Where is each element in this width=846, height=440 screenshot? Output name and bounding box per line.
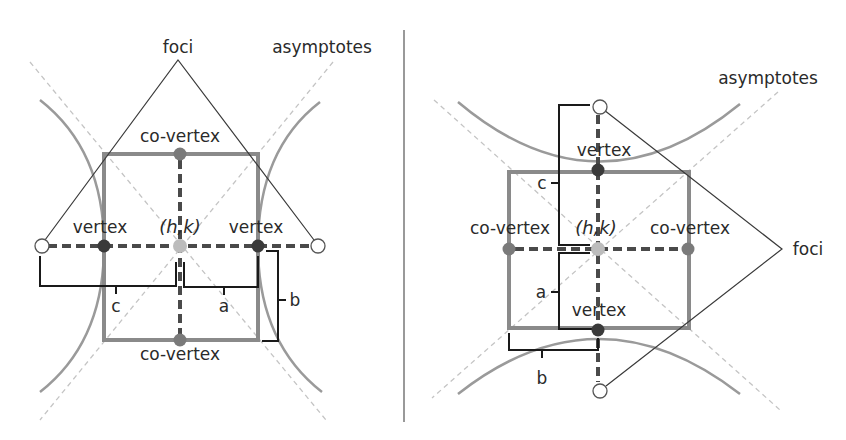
covertex-left-label: co-vertex	[470, 218, 550, 238]
center-point	[591, 242, 605, 256]
covertex-point-top	[174, 148, 187, 161]
left-panel: foci asymptotes co-vertex vertex (h,k) v…	[30, 37, 372, 420]
asymptote-line	[432, 92, 778, 398]
asymptotes-label: asymptotes	[718, 68, 818, 88]
c-label: c	[111, 296, 120, 316]
asymptote-line	[40, 62, 333, 420]
covertex-right-label: co-vertex	[650, 218, 730, 238]
b-bracket	[509, 333, 598, 350]
a-label: a	[536, 282, 546, 302]
c-bracket	[40, 256, 176, 286]
a-bracket	[184, 256, 258, 287]
focus-point-top	[593, 100, 607, 114]
vertex-point-left	[98, 240, 111, 253]
focus-point-right	[311, 239, 325, 253]
covertex-point-right	[682, 243, 695, 256]
b-label: b	[290, 290, 301, 310]
vertex-left-label: vertex	[73, 217, 127, 237]
vertex-point-right	[252, 240, 265, 253]
covertex-bottom-label: co-vertex	[140, 344, 220, 364]
covertex-top-label: co-vertex	[140, 126, 220, 146]
hyperbola-diagram: foci asymptotes co-vertex vertex (h,k) v…	[0, 0, 846, 440]
vertex-point-bottom	[592, 324, 605, 337]
asymptotes-label: asymptotes	[272, 37, 372, 57]
right-panel: asymptotes vertex c co-vertex (h,k) co-v…	[432, 68, 823, 410]
focus-point-bottom	[593, 384, 607, 398]
center-label: (h,k)	[159, 216, 201, 237]
vertex-top-label: vertex	[577, 140, 631, 160]
center-label: (h,k)	[575, 217, 617, 238]
b-bracket	[262, 251, 278, 341]
vertex-point-top	[592, 164, 605, 177]
c-label: c	[537, 173, 546, 193]
a-label: a	[219, 296, 229, 316]
vertex-right-label: vertex	[229, 217, 283, 237]
b-label: b	[537, 368, 548, 388]
foci-label: foci	[163, 37, 193, 57]
foci-label: foci	[793, 239, 823, 259]
covertex-point-left	[503, 243, 516, 256]
focus-point-left	[35, 239, 49, 253]
center-point	[173, 239, 187, 253]
vertex-bottom-label: vertex	[572, 300, 626, 320]
